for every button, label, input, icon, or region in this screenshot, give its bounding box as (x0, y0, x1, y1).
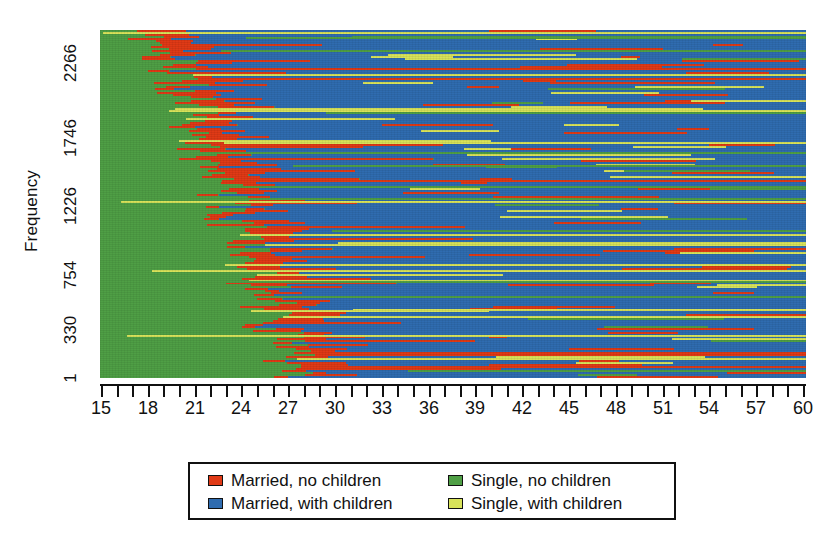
x-tick-mark (475, 386, 477, 397)
y-tick-label-1746: 1746 (61, 103, 81, 173)
legend-swatch-icon-single-no-children (448, 475, 463, 486)
x-tick-mark (522, 386, 524, 397)
x-tick-label-54: 54 (682, 398, 736, 419)
x-tick-mark (397, 386, 399, 397)
x-tick-mark (538, 386, 540, 397)
x-tick-mark (101, 386, 103, 397)
x-tick-mark (787, 386, 789, 397)
sequence-plot-canvas (100, 30, 806, 378)
x-tick-mark (491, 386, 493, 397)
x-tick-label-48: 48 (589, 398, 643, 419)
x-tick-mark (709, 386, 711, 397)
x-tick-mark (382, 386, 384, 397)
x-tick-mark (663, 386, 665, 397)
x-tick-mark (694, 386, 696, 397)
x-tick-label-60: 60 (776, 398, 830, 419)
legend-label-single-no-children: Single, no children (471, 472, 611, 489)
legend-label-married-with-children: Married, with children (231, 495, 393, 512)
x-tick-mark (117, 386, 119, 397)
x-tick-mark (616, 386, 618, 397)
legend-column-right: Single, no children Single, with childre… (448, 470, 622, 516)
x-tick-mark (429, 386, 431, 397)
x-tick-mark (241, 386, 243, 397)
x-tick-mark (460, 386, 462, 397)
x-tick-mark (553, 386, 555, 397)
x-tick-mark (288, 386, 290, 397)
x-tick-mark (569, 386, 571, 397)
x-tick-mark (319, 386, 321, 397)
x-tick-mark (741, 386, 743, 397)
x-tick-mark (351, 386, 353, 397)
x-tick-mark (148, 386, 150, 397)
x-tick-label-30: 30 (308, 398, 362, 419)
x-tick-mark (304, 386, 306, 397)
x-tick-label-42: 42 (495, 398, 549, 419)
x-tick-mark (631, 386, 633, 397)
x-tick-mark (803, 386, 805, 397)
x-tick-mark (366, 386, 368, 397)
x-tick-mark (444, 386, 446, 397)
x-tick-mark (772, 386, 774, 397)
x-tick-mark (725, 386, 727, 397)
x-tick-mark (195, 386, 197, 397)
x-tick-label-39: 39 (448, 398, 502, 419)
x-tick-mark (179, 386, 181, 397)
legend-swatch-icon-married-no-children (208, 475, 223, 486)
x-tick-label-18: 18 (121, 398, 175, 419)
x-tick-label-15: 15 (74, 398, 128, 419)
x-tick-mark (257, 386, 259, 397)
x-tick-mark (678, 386, 680, 397)
x-tick-label-27: 27 (261, 398, 315, 419)
legend: Married, no children Married, with child… (188, 462, 676, 520)
legend-item-single-with-children: Single, with children (448, 493, 622, 514)
x-tick-mark (413, 386, 415, 397)
x-axis-line (100, 384, 806, 386)
x-tick-mark (600, 386, 602, 397)
x-tick-label-24: 24 (214, 398, 268, 419)
y-tick-label-1226: 1226 (61, 171, 81, 241)
sequence-index-plot-figure: Frequency 2266 1746 1226 754 330 1 Marri… (0, 0, 838, 556)
legend-column-left: Married, no children Married, with child… (208, 470, 393, 516)
x-tick-mark (507, 386, 509, 397)
x-tick-mark (132, 386, 134, 397)
legend-item-single-no-children: Single, no children (448, 470, 622, 491)
legend-swatch-icon-single-with-children (448, 498, 463, 509)
y-tick-label-2266: 2266 (61, 28, 81, 98)
legend-item-married-no-children: Married, no children (208, 470, 393, 491)
plot-panel (100, 30, 806, 378)
x-tick-mark (585, 386, 587, 397)
y-axis-title: Frequency (22, 131, 44, 291)
x-tick-mark (647, 386, 649, 397)
legend-label-married-no-children: Married, no children (231, 472, 381, 489)
x-tick-mark (335, 386, 337, 397)
x-tick-mark (163, 386, 165, 397)
x-tick-mark (226, 386, 228, 397)
x-axis (100, 384, 806, 385)
x-tick-mark (210, 386, 212, 397)
x-tick-mark (756, 386, 758, 397)
x-tick-label-57: 57 (729, 398, 783, 419)
x-tick-label-45: 45 (542, 398, 596, 419)
legend-swatch-icon-married-with-children (208, 498, 223, 509)
legend-item-married-with-children: Married, with children (208, 493, 393, 514)
x-tick-label-33: 33 (355, 398, 409, 419)
legend-label-single-with-children: Single, with children (471, 495, 622, 512)
x-tick-mark (273, 386, 275, 397)
